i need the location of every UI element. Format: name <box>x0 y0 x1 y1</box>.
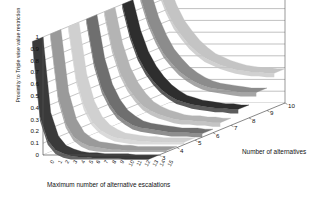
y-axis-title: Proximity to Triple wise value restricti… <box>15 0 21 115</box>
z-axis-title: Number of alternatives <box>242 148 306 155</box>
y-axis-tick-label: 0.8 <box>25 57 39 64</box>
y-axis-tick-label: 0.7 <box>25 68 39 75</box>
y-axis-tick-label: 0.9 <box>25 45 39 52</box>
z-axis-tick-label: 3 <box>162 154 165 161</box>
y-axis-tick-label: 0.6 <box>25 80 39 87</box>
z-axis-tick-label: 9 <box>270 109 273 116</box>
y-axis-tick-label: 0.4 <box>25 104 39 111</box>
z-axis-tick-label: 6 <box>216 132 219 139</box>
chart-canvas <box>0 0 329 199</box>
y-axis-tick-label: 0.2 <box>25 127 39 134</box>
z-axis-tick-label: 5 <box>198 139 201 146</box>
y-axis-tick-label: 0.5 <box>25 92 39 99</box>
x-axis-title: Maximum number of alternative escalation… <box>47 181 170 188</box>
z-axis-tick-label: 8 <box>252 117 255 124</box>
chart-3d-surface: Proximity to Triple wise value restricti… <box>0 0 329 199</box>
y-axis-tick-label: 0.3 <box>25 116 39 123</box>
z-axis-tick-label: 4 <box>180 147 183 154</box>
y-axis-tick-label: 1 <box>25 33 39 40</box>
y-axis-tick-label: 0 <box>25 151 39 158</box>
z-axis-tick-label: 7 <box>234 124 237 131</box>
z-axis-tick-label: 10 <box>288 102 295 109</box>
y-axis-tick-label: 0.1 <box>25 139 39 146</box>
